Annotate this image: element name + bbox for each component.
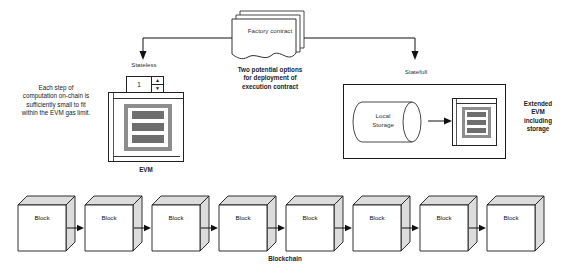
extended-evm-caption-line2: EVM bbox=[509, 108, 567, 116]
gas-limit-note-line4: within the EVM gas limit. bbox=[5, 109, 107, 117]
deployment-caption-line1: Two potential options bbox=[205, 66, 335, 74]
block-link-arrow bbox=[268, 222, 285, 234]
screen-bar-2 bbox=[132, 123, 164, 131]
block-link-arrow bbox=[201, 222, 218, 234]
monitor-top-rule bbox=[113, 98, 183, 99]
block-label: Block bbox=[18, 214, 66, 221]
screen-bar-3 bbox=[132, 135, 164, 143]
extended-evm-unit bbox=[452, 98, 497, 146]
stepper-buttons[interactable]: ▲ ▼ bbox=[151, 77, 163, 92]
extended-evm-caption-line3: including bbox=[509, 117, 567, 125]
block-label: Block bbox=[85, 214, 133, 221]
block-label: Block bbox=[420, 214, 468, 221]
extended-evm-caption-line1: Extended bbox=[509, 100, 567, 108]
statefull-header: Statefull bbox=[385, 68, 447, 75]
block-label: Block bbox=[353, 214, 401, 221]
gas-limit-note: Each step of computation on-chain is suf… bbox=[5, 84, 107, 118]
stateless-header: Stateless bbox=[113, 61, 175, 68]
deployment-caption-line3: execution contract bbox=[205, 83, 335, 91]
block-label: Block bbox=[219, 214, 267, 221]
extended-evm-monitor bbox=[452, 98, 497, 146]
block-link-arrow bbox=[335, 222, 352, 234]
block-cube: Block bbox=[487, 196, 546, 253]
evm-monitor bbox=[108, 92, 184, 162]
cube-icon bbox=[487, 196, 546, 253]
stepper-value: 1 bbox=[127, 77, 151, 92]
deployment-caption: Two potential options for deployment of … bbox=[205, 66, 335, 91]
factory-contract-label: Factory contract bbox=[228, 27, 312, 34]
extended-evm-screen bbox=[462, 107, 491, 138]
blockchain-caption: Blockchain bbox=[235, 255, 335, 263]
monitor-bottom-rule bbox=[114, 156, 180, 157]
extended-monitor-side-strip bbox=[453, 99, 457, 145]
storage-to-evm-arrow bbox=[428, 114, 454, 128]
local-storage-label: Local Storage bbox=[352, 112, 414, 129]
gas-limit-note-line3: sufficiently small to fit bbox=[5, 101, 107, 109]
screen-bar-1 bbox=[132, 111, 164, 119]
local-storage-line2: Storage bbox=[352, 121, 414, 130]
extended-evm-caption-line4: storage bbox=[509, 125, 567, 133]
gas-limit-note-line1: Each step of bbox=[5, 84, 107, 92]
triangle-down-icon[interactable]: ▼ bbox=[152, 85, 163, 92]
block-link-arrow bbox=[469, 222, 486, 234]
extended-screen-bar-3 bbox=[467, 128, 486, 133]
block-label: Block bbox=[152, 214, 200, 221]
evm-screen bbox=[124, 104, 172, 151]
block-label: Block bbox=[487, 214, 535, 221]
extended-monitor-top-rule bbox=[456, 103, 496, 104]
extended-screen-bar-1 bbox=[467, 112, 486, 117]
block-label: Block bbox=[286, 214, 334, 221]
stateless-evm-unit: 1 ▲ ▼ bbox=[108, 76, 184, 164]
diagram-canvas: Factory contract Two potential options f… bbox=[0, 0, 569, 277]
monitor-side-strip bbox=[109, 93, 114, 161]
block-link-arrow bbox=[67, 222, 84, 234]
local-storage-line1: Local bbox=[352, 112, 414, 121]
blockchain-row: BlockBlockBlockBlockBlockBlockBlockBlock bbox=[0, 190, 569, 252]
gas-limit-note-line2: computation on-chain is bbox=[5, 92, 107, 100]
extended-screen-bar-2 bbox=[467, 120, 486, 125]
quantity-stepper[interactable]: 1 ▲ ▼ bbox=[126, 76, 164, 93]
deployment-caption-line2: for deployment of bbox=[205, 74, 335, 82]
block-link-arrow bbox=[134, 222, 151, 234]
evm-caption: EVM bbox=[113, 166, 179, 174]
document-stack-icon bbox=[228, 8, 312, 64]
block-link-arrow bbox=[402, 222, 419, 234]
extended-evm-caption: Extended EVM including storage bbox=[509, 100, 567, 134]
triangle-up-icon[interactable]: ▲ bbox=[152, 77, 163, 85]
